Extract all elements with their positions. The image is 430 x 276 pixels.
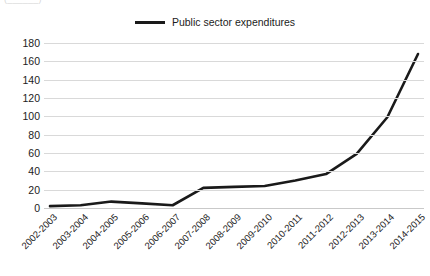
gridline-40	[44, 171, 424, 172]
series-public-sector-expenditures	[44, 43, 424, 208]
y-tick-label-20: 20	[4, 184, 40, 195]
gridline-140	[44, 80, 424, 81]
legend-label-public-sector-expenditures: Public sector expenditures	[172, 16, 295, 28]
gridline-180	[44, 43, 424, 44]
gridline-160	[44, 61, 424, 62]
gridline-60	[44, 153, 424, 154]
plot-area	[44, 43, 424, 208]
gridline-120	[44, 98, 424, 99]
y-axis: 180160140120100806040200	[0, 43, 40, 208]
y-tick-label-80: 80	[4, 129, 40, 140]
y-tick-label-100: 100	[4, 111, 40, 122]
y-tick-label-60: 60	[4, 148, 40, 159]
y-tick-label-140: 140	[4, 74, 40, 85]
gridline-20	[44, 190, 424, 191]
gridline-100	[44, 116, 424, 117]
gridline-80	[44, 135, 424, 136]
y-tick-label-180: 180	[4, 38, 40, 49]
chart-legend: Public sector expenditures	[0, 12, 430, 32]
caption-fragment: (______)	[4, 0, 154, 6]
y-tick-label-0: 0	[4, 203, 40, 214]
legend-line-swatch-icon	[135, 21, 165, 24]
y-tick-label-160: 160	[4, 56, 40, 67]
chart-figure: (______) Public sector expenditures 1801…	[0, 0, 430, 276]
y-tick-label-40: 40	[4, 166, 40, 177]
x-axis: 2002-20032003-20042004-20052005-20062006…	[44, 208, 424, 276]
y-tick-label-120: 120	[4, 93, 40, 104]
